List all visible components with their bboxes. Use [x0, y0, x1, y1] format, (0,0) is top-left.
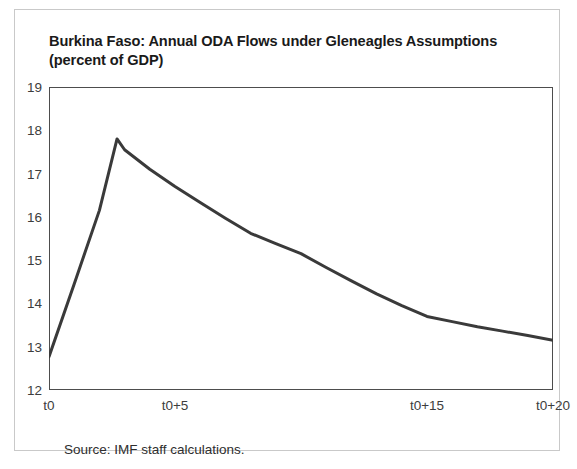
x-tick-label: t0+15 [410, 398, 444, 413]
y-tick-label: 14 [12, 296, 42, 311]
y-tick-label: 16 [12, 209, 42, 224]
y-axis-tick-labels: 1213141516171819 [8, 87, 42, 390]
chart-title-line-1: Burkina Faso: Annual ODA Flows under Gle… [49, 32, 561, 51]
y-tick-label: 12 [12, 383, 42, 398]
oda-flows-line-chart [49, 87, 553, 390]
x-tick-label: t0 [43, 398, 54, 413]
chart-title: Burkina Faso: Annual ODA Flows under Gle… [49, 32, 561, 71]
plot-area [49, 87, 553, 390]
oda-flows-line-series [49, 139, 553, 357]
x-tick-label: t0+20 [536, 398, 570, 413]
y-tick-label: 13 [12, 339, 42, 354]
source-note: Source: IMF staff calculations. [64, 442, 245, 457]
y-tick-label: 17 [12, 166, 42, 181]
y-tick-label: 18 [12, 123, 42, 138]
y-tick-label: 15 [12, 253, 42, 268]
x-axis-tick-labels: t0t0+5t0+15t0+20 [0, 398, 577, 420]
y-tick-label: 19 [12, 80, 42, 95]
chart-title-line-2: (percent of GDP) [49, 51, 561, 70]
x-tick-label: t0+5 [162, 398, 189, 413]
